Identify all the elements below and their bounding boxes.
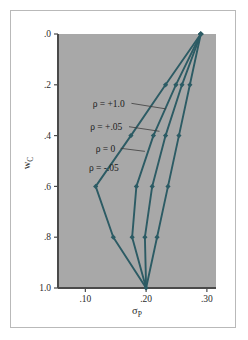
x-tick-label: .30: [201, 294, 213, 304]
y-tick-label: .2: [44, 80, 51, 90]
y-axis-title: wC: [21, 157, 35, 170]
x-tick-label: .20: [140, 294, 152, 304]
series-annotation-label: ρ = +1.0: [93, 99, 125, 109]
y-tick-label: .8: [44, 232, 51, 242]
y-tick-label: .0: [44, 29, 51, 39]
chart-plot-svg: .0.2.4.6.81.0 .10.20.30 ρ = +1.0ρ = +.05…: [11, 11, 237, 329]
x-axis-title: σP: [132, 305, 142, 319]
x-tick-label: .10: [79, 294, 91, 304]
y-tick-label: .6: [44, 182, 51, 192]
y-tick-labels: .0.2.4.6.81.0: [39, 29, 58, 293]
series-annotation-label: ρ = -.05: [89, 163, 119, 173]
chart-figure: .0.2.4.6.81.0 .10.20.30 ρ = +1.0ρ = +.05…: [10, 10, 236, 328]
series-annotation-label: ρ = +.05: [90, 122, 122, 132]
y-tick-label: 1.0: [39, 283, 51, 293]
series-annotation-label: ρ = 0: [96, 144, 116, 154]
y-tick-label: .4: [44, 131, 51, 141]
